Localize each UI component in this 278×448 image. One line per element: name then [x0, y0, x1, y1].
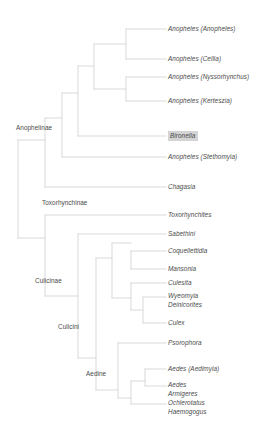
- tip-label-anopheles-cellia: Anopheles (Cellia): [168, 55, 221, 63]
- tip-label-anopheles-nyssorhynchus: Anopheles (Nyssorhynchus): [168, 73, 249, 81]
- tip-label-sabethini: Sabethini: [168, 230, 195, 238]
- branch-group: [18, 29, 166, 404]
- tip-label-ochlerotatus-haemogogus-line-2: Haemogogus: [168, 408, 207, 417]
- tip-label-mansonia: Mansonia: [168, 265, 196, 273]
- tip-label-anopheles-kerteszia: Anopheles (Kerteszia): [168, 97, 232, 105]
- tip-label-aedes-armigeres: AedesArmigeres: [168, 381, 198, 398]
- tip-label-culiseta: Culesita: [168, 279, 192, 287]
- tip-label-culex: Culex: [168, 319, 185, 327]
- tip-label-wyeomyia-deinocerites: WyeomyiaDeinicorites: [168, 292, 202, 309]
- clade-label-anophelinae: Anophelinae: [16, 124, 52, 132]
- tip-label-anopheles-stethomyia: Anopheles (Stethomyia): [168, 153, 237, 161]
- tree-branches: [0, 0, 278, 448]
- tip-label-bironella: Bironella: [168, 131, 198, 141]
- tip-label-ochlerotatus-haemogogus-line-1: Ochlerotatus: [168, 399, 207, 408]
- phylogenetic-tree-figure: Anopheles (Anopheles)Anopheles (Cellia)A…: [0, 0, 278, 448]
- tip-label-chagasia: Chagasia: [168, 183, 195, 191]
- tip-label-aedes-aedimyia: Aedes (Aedimyia): [168, 365, 219, 373]
- clade-label-aedine: Aedine: [86, 370, 106, 378]
- clade-label-culicinae: Culicinae: [35, 277, 62, 285]
- tip-label-toxorhynchites: Toxorhynchites: [168, 211, 211, 219]
- tip-label-anopheles-anopheles: Anopheles (Anopheles): [168, 25, 236, 33]
- tip-label-wyeomyia-deinocerites-line-1: Wyeomyia: [168, 292, 202, 301]
- tip-label-psorophora: Psorophora: [168, 339, 202, 347]
- tip-label-wyeomyia-deinocerites-line-2: Deinicorites: [168, 301, 202, 310]
- clade-label-toxorhynchinae: Toxorhynchinae: [42, 199, 87, 207]
- tip-label-ochlerotatus-haemogogus: OchlerotatusHaemogogus: [168, 399, 207, 416]
- clade-label-culicini: Culicini: [58, 323, 79, 331]
- tip-label-aedes-armigeres-line-1: Aedes: [168, 381, 198, 390]
- tip-label-aedes-armigeres-line-2: Armigeres: [168, 390, 198, 399]
- tip-label-coquellettidia: Coquellettidia: [168, 247, 207, 255]
